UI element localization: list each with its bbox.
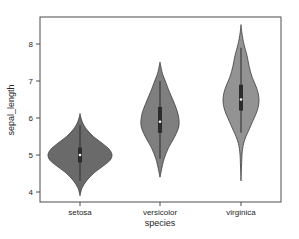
iqr-box (239, 85, 243, 111)
x-tick-label-versicolor: versicolor (143, 208, 178, 217)
iqr-box (158, 107, 162, 133)
x-axis-label: species (145, 218, 176, 228)
x-tick-label-setosa: setosa (68, 208, 92, 217)
violin-chart: 45678 setosaversicolorvirginica species … (0, 0, 299, 239)
median-marker (79, 154, 82, 157)
x-axis: setosaversicolorvirginica (68, 202, 256, 217)
y-tick-label: 5 (29, 151, 34, 160)
y-tick-label: 7 (29, 77, 34, 86)
y-tick-label: 8 (29, 40, 34, 49)
y-axis-label: sepal_length (6, 84, 16, 135)
y-axis: 45678 (29, 40, 40, 197)
x-tick-label-virginica: virginica (226, 208, 256, 217)
median-marker (159, 120, 162, 123)
y-tick-label: 6 (29, 114, 34, 123)
y-tick-label: 4 (29, 188, 34, 197)
median-marker (240, 98, 243, 101)
